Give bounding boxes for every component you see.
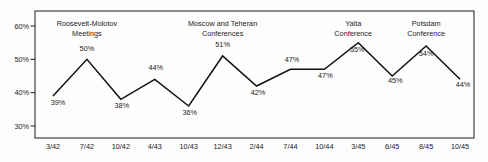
data-point-label: 51% [215, 40, 230, 49]
y-axis-tick-label: 40% [14, 88, 29, 97]
event-annotation-label: Conferences [202, 29, 244, 38]
x-axis-tick-label: 10/44 [315, 142, 333, 151]
x-axis-tick-label: 6/45 [385, 142, 399, 151]
event-annotation-label: Moscow and Teheran [188, 19, 257, 28]
data-point-label: 44% [456, 80, 471, 89]
x-axis-tick-label: 10/45 [451, 142, 469, 151]
x-axis-tick-label: 3/45 [351, 142, 365, 151]
x-axis-tick-label: 4/43 [148, 142, 162, 151]
x-axis-tick-label: 7/42 [80, 142, 94, 151]
y-axis-tick-label: 50% [14, 55, 29, 64]
data-point-label: 39% [51, 98, 66, 107]
chart-container: 30%40%50%60%3/427/4210/424/4310/4312/432… [0, 0, 488, 162]
x-axis-tick-label: 8/45 [419, 142, 433, 151]
data-point-label: 45% [388, 76, 403, 85]
data-point-label: 55% [350, 45, 365, 54]
event-annotation-label: Meetings [72, 29, 102, 38]
event-annotation-label: Roosevelt-Molotov [57, 19, 118, 28]
x-axis-tick-label: 7/44 [283, 142, 297, 151]
x-axis-tick-label: 10/43 [180, 142, 198, 151]
data-point-label: 38% [115, 101, 130, 110]
event-annotation-label: Yalta [345, 19, 362, 28]
data-point-label: 36% [182, 108, 197, 117]
event-annotation-label: Potsdam [412, 19, 441, 28]
x-axis-tick-label: 3/42 [46, 142, 60, 151]
y-axis-tick-label: 60% [14, 22, 29, 31]
data-point-label: 44% [148, 63, 163, 72]
x-axis-tick-label: 10/42 [112, 142, 130, 151]
data-point-label: 47% [318, 71, 333, 80]
event-annotation-label: Conference [334, 29, 372, 38]
line-chart: 30%40%50%60%3/427/4210/424/4310/4312/432… [0, 0, 488, 162]
data-point-label: 50% [80, 44, 95, 53]
x-axis-tick-label: 2/44 [249, 142, 263, 151]
x-axis-tick-label: 12/43 [213, 142, 231, 151]
data-point-label: 47% [285, 55, 300, 64]
data-point-label: 42% [251, 88, 266, 97]
y-axis-tick-label: 30% [14, 122, 29, 131]
event-annotation-label: Conference [407, 29, 445, 38]
data-point-label: 54% [419, 49, 434, 58]
